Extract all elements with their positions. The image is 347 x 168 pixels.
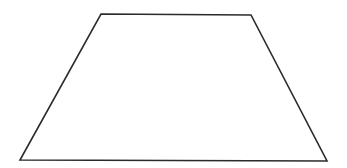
trapezoid-shape bbox=[20, 14, 327, 161]
diagram-canvas bbox=[0, 0, 347, 168]
